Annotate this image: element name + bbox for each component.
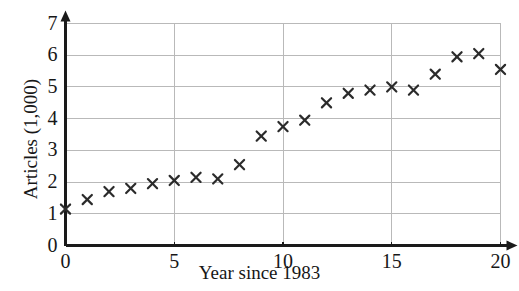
- axis-lines: [61, 11, 518, 251]
- y-axis-arrowhead: [61, 11, 71, 22]
- data-point-marker: [148, 179, 157, 188]
- data-point-marker: [474, 49, 483, 58]
- y-tick-label: 7: [36, 13, 58, 33]
- data-point-marker: [104, 187, 113, 196]
- data-point-marker: [452, 52, 461, 61]
- grid-lines: [66, 24, 501, 246]
- x-axis-arrowhead: [507, 241, 518, 251]
- chart-canvas: [0, 0, 519, 291]
- data-point-marker: [191, 173, 200, 182]
- data-point-marker: [126, 184, 135, 193]
- data-point-marker: [344, 89, 353, 98]
- data-point-marker: [83, 195, 92, 204]
- y-axis-title: Articles (1,000): [20, 34, 42, 244]
- data-point-marker: [235, 160, 244, 169]
- x-axis-title: Year since 1983: [0, 262, 519, 284]
- data-point-marker: [322, 98, 331, 107]
- data-point-marker: [300, 116, 309, 125]
- scatter-plot-figure: 01234567 05101520 Articles (1,000) Year …: [0, 0, 519, 291]
- data-point-marker: [257, 131, 266, 140]
- data-point-marker: [431, 70, 440, 79]
